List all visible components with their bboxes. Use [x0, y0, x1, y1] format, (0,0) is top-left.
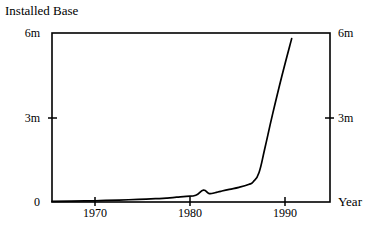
plot-area: [0, 0, 390, 238]
plot-frame: [52, 33, 330, 202]
chart-container: Installed Base 6m 3m 0 6m 3m 1970 1980 1…: [0, 0, 390, 238]
